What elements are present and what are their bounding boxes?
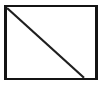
rectangle-outline [5,6,96,79]
diagram-svg [0,0,103,86]
figure-canvas: Black rectangular outline containing a s… [0,0,103,86]
